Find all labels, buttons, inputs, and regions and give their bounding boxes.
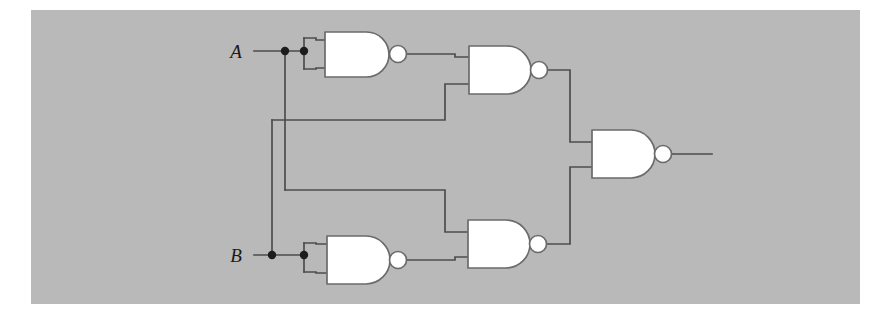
wire-b-gate4-top xyxy=(304,243,327,244)
gate-1-body xyxy=(325,32,389,77)
input-a-label: A xyxy=(228,41,242,62)
circuit-canvas: AB xyxy=(0,0,891,314)
gate-5-inversion-bubble xyxy=(530,236,547,253)
junction-b-branch xyxy=(268,251,276,259)
logic-circuit-figure: AB xyxy=(0,0,891,314)
gate-3-inversion-bubble xyxy=(655,146,672,163)
gate-2-body xyxy=(469,46,531,94)
input-b-label: B xyxy=(230,245,242,266)
gate-4-inversion-bubble xyxy=(390,252,407,269)
wire-b-gate4-bottom xyxy=(304,272,327,273)
junction-b-gate-tie xyxy=(300,251,308,259)
junction-a-gate-tie xyxy=(300,47,308,55)
junction-a-branch xyxy=(281,47,289,55)
wire-a-gate1-bottom xyxy=(304,68,325,69)
gate-4-body xyxy=(327,236,390,284)
gate-1-inversion-bubble xyxy=(390,46,407,63)
gate-2-inversion-bubble xyxy=(531,62,548,79)
gate-5-body xyxy=(468,220,530,268)
gate-3-body xyxy=(592,130,655,178)
